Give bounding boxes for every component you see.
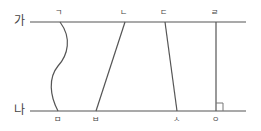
point-label-mieum: ㅁ	[54, 116, 61, 124]
point-label-ieung: ㅇ	[212, 116, 219, 124]
point-label-digeut: ㄷ	[160, 9, 167, 17]
point-label-nieun: ㄴ	[120, 9, 127, 17]
curve-giyeok-mieum	[51, 22, 67, 111]
point-label-rieul: ㄹ	[211, 9, 218, 17]
point-label-bieup: ㅂ	[92, 116, 99, 124]
segment-nieun-bieup	[96, 22, 125, 111]
point-label-giyeok: ㄱ	[55, 9, 62, 17]
point-label-siot: ㅅ	[173, 116, 180, 124]
line-label-na: 나	[14, 104, 25, 116]
right-angle-marker	[216, 103, 223, 111]
line-label-ga: 가	[14, 15, 25, 27]
segment-digeut-siot	[165, 22, 177, 111]
diagram-canvas	[0, 0, 261, 131]
